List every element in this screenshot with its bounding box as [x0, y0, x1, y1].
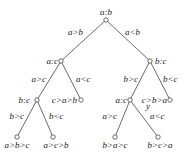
leaf-cba: [168, 98, 172, 102]
label-leaf-abc: a>b>c: [4, 140, 29, 150]
label-leaf-bca: b>c>a: [147, 140, 173, 150]
label-ac: a:c: [47, 56, 59, 66]
edge-label-bcl-left: b>c: [9, 111, 24, 121]
edge-label-bcl-right: b<c: [49, 111, 64, 121]
edge-acr-left: [115, 100, 130, 137]
leaf-abc: [15, 135, 19, 139]
edge-label-ac-left: a>c: [31, 74, 46, 84]
leaf-bac: [113, 135, 117, 139]
label-ac-right: a:c: [116, 95, 128, 105]
label-root: a:b: [100, 7, 112, 17]
label-leaf-acb: a>c>b: [43, 140, 69, 150]
decision-tree-diagram: a:b a:c b:c b:c c>a>b a:c c>b>a a>b>c a>…: [0, 0, 185, 154]
edge-label-bcr-right: b<c: [163, 74, 178, 84]
leaf-acb: [51, 135, 55, 139]
label-leaf-cab: c>a>b: [52, 95, 78, 105]
edge-label-root-left: a>b: [68, 27, 84, 37]
edge-label-ac-right: a<c: [76, 74, 91, 84]
leaf-cab: [79, 98, 83, 102]
edge-label-acr-right: a<c: [150, 111, 165, 121]
label-leaf-bac: b>a>c: [102, 140, 127, 150]
edge-label-bcr-left: b>c: [123, 74, 138, 84]
annotation-y: y: [145, 101, 150, 111]
node-ac-right: [128, 98, 132, 102]
leaf-bca: [156, 135, 160, 139]
edge-label-acr-left: a>c: [102, 111, 117, 121]
node-ac: [59, 59, 63, 63]
node-root: [104, 18, 108, 22]
label-bc-left: b:c: [19, 95, 31, 105]
label-bc-right: b:c: [155, 56, 167, 66]
edge-label-root-right: a<b: [125, 27, 141, 37]
node-bc-right: [148, 59, 152, 63]
node-bc-left: [35, 98, 39, 102]
